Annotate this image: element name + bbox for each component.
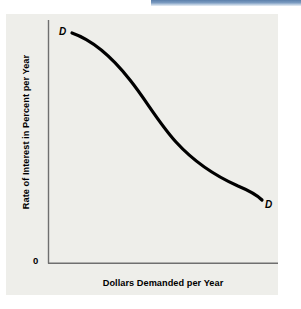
origin-label: 0 — [33, 255, 38, 266]
demand-curve-path — [72, 33, 262, 200]
curve-end-label: D — [265, 199, 272, 210]
demand-curve-chart — [0, 0, 301, 309]
x-axis-title: Dollars Demanded per Year — [48, 278, 278, 288]
y-axis-title: Rate of Interest in Percent per Year — [21, 32, 31, 232]
curve-start-label: D — [59, 26, 66, 37]
